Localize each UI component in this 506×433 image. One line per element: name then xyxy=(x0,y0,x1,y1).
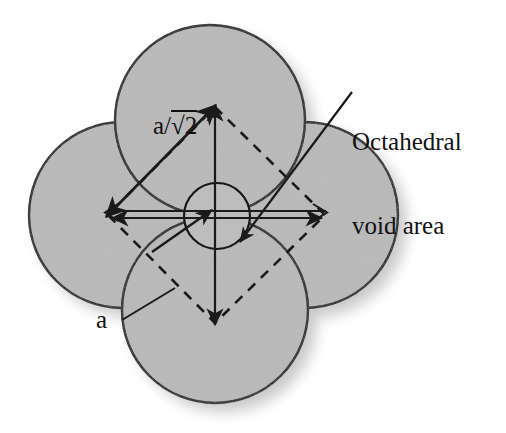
edge-length-label: a xyxy=(96,306,107,334)
diagonal-length-radical: √2 xyxy=(171,112,197,139)
diagonal-length-label: a/√2 xyxy=(128,84,197,168)
octahedral-void-diagram: Octahedral void area a/√2 a xyxy=(0,0,506,433)
octahedral-void-label-line1: Octahedral xyxy=(352,128,462,156)
octahedral-void-label-line2: void area xyxy=(352,212,462,240)
octahedral-void-label: Octahedral void area xyxy=(352,72,462,296)
diagonal-length-base: a/ xyxy=(153,112,171,139)
octahedral-void-circle xyxy=(184,183,250,249)
